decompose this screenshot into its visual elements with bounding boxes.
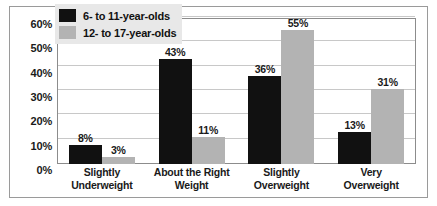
legend-swatch-icon	[59, 9, 76, 22]
bar	[159, 59, 192, 164]
x-axis-category-label: SlightlyOverweight	[237, 166, 327, 192]
legend-item-label: 6- to 11-year-olds	[83, 10, 170, 22]
legend-item-label: 12- to 17-year-olds	[83, 27, 176, 39]
x-axis-category-label-line: Slightly	[237, 166, 327, 179]
bar	[69, 145, 102, 164]
legend-item: 12- to 17-year-olds	[59, 24, 176, 41]
bar	[338, 132, 371, 164]
bar-value-label: 55%	[278, 17, 318, 29]
legend-swatch-icon	[59, 26, 76, 39]
legend-item: 6- to 11-year-olds	[59, 7, 176, 24]
bar-value-label: 31%	[368, 76, 408, 88]
bar-value-label: 36%	[245, 63, 285, 75]
bar-value-label: 43%	[155, 46, 195, 58]
bar-value-label: 3%	[98, 144, 138, 156]
bar-chart: 0%10%20%30%40%50%60% 8%3%43%11%36%55%13%…	[0, 0, 437, 206]
x-axis-category-label-line: Very	[326, 166, 416, 179]
x-axis-category-label-line: Slightly	[57, 166, 147, 179]
x-axis-category-label-line: Overweight	[237, 179, 327, 192]
bar	[192, 137, 225, 164]
bar-value-label: 8%	[65, 132, 105, 144]
bar-group: 36%55%	[237, 18, 327, 164]
x-axis-category-label-line: Overweight	[326, 179, 416, 192]
x-axis-category-label: About the RightWeight	[147, 166, 237, 192]
bar-value-label: 11%	[188, 124, 228, 136]
x-axis-category-label-line: Weight	[147, 179, 237, 192]
bar	[102, 157, 135, 164]
bar	[281, 30, 314, 164]
x-axis-category-label-line: About the Right	[147, 166, 237, 179]
x-axis-category-label-line: Underweight	[57, 179, 147, 192]
bar	[371, 89, 404, 164]
x-axis-category-label: VeryOverweight	[326, 166, 416, 192]
bar-group: 13%31%	[326, 18, 416, 164]
bar	[248, 76, 281, 164]
x-axis-category-label: SlightlyUnderweight	[57, 166, 147, 192]
chart-legend: 6- to 11-year-olds 12- to 17-year-olds	[55, 4, 182, 44]
y-axis-tick-labels: 0%10%20%30%40%50%60%	[12, 18, 54, 164]
x-axis-category-labels: SlightlyUnderweightAbout the RightWeight…	[57, 166, 416, 198]
bar-value-label: 13%	[335, 119, 375, 131]
